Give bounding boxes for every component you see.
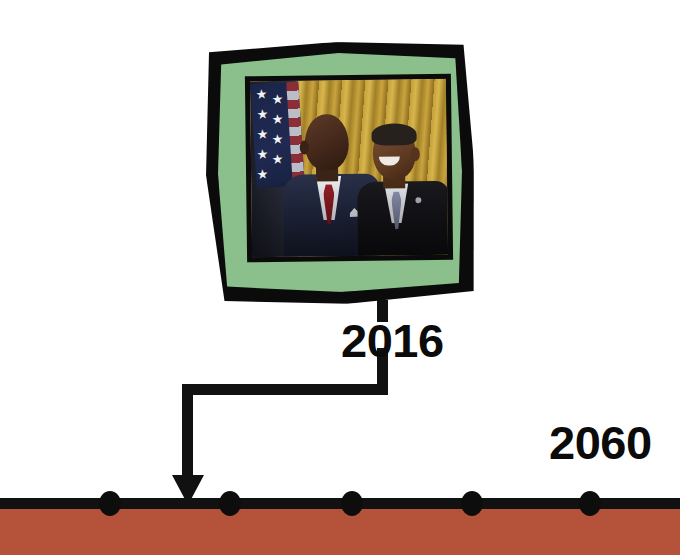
timeline-tick-dot-4[interactable] <box>461 491 483 516</box>
connector-vertical <box>182 384 193 479</box>
figure-barack-obama <box>356 123 448 256</box>
timeline-band <box>0 508 680 555</box>
mj-head <box>304 114 349 171</box>
year-label-2060[interactable]: 2060 <box>549 419 652 466</box>
flag-star: ★ <box>271 92 284 106</box>
bo-ear <box>411 147 420 161</box>
photo-image: ★ ★ ★ ★ ★ ★ ★ ★ ★ <box>250 79 448 257</box>
timeline-tick-dot-2[interactable] <box>219 491 241 516</box>
framed-photo-2016[interactable]: ★ ★ ★ ★ ★ ★ ★ ★ ★ <box>206 42 474 304</box>
flag-star: ★ <box>256 107 269 121</box>
flag-star: ★ <box>256 127 269 141</box>
connector-horizontal <box>182 384 388 395</box>
flag-star: ★ <box>256 87 269 101</box>
timeline-tick-dot-3[interactable] <box>341 491 363 516</box>
timeline-tick-dot-5[interactable] <box>579 491 601 516</box>
mj-ear <box>300 140 309 154</box>
timeline-infographic: ★ ★ ★ ★ ★ ★ ★ ★ ★ <box>0 0 680 555</box>
flag-star: ★ <box>256 147 269 161</box>
timeline-tick-dot-1[interactable] <box>99 491 121 516</box>
bo-flag-lapel-pin <box>415 197 421 203</box>
bo-hair <box>371 123 416 146</box>
flag-star: ★ <box>257 168 270 182</box>
year-label-2016[interactable]: 2016 <box>341 317 444 364</box>
